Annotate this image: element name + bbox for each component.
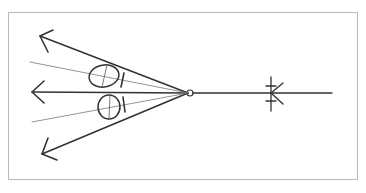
middle-ray xyxy=(32,92,188,93)
lower-oval-axis xyxy=(109,95,110,119)
ray-diagram xyxy=(0,0,366,193)
upper-ray xyxy=(40,36,188,93)
upper-oval-stop xyxy=(87,63,120,90)
upper-thin-ray xyxy=(30,62,188,93)
lower-oval-bar xyxy=(123,97,125,112)
lower-ray xyxy=(42,93,188,154)
diagram-canvas xyxy=(0,0,366,193)
